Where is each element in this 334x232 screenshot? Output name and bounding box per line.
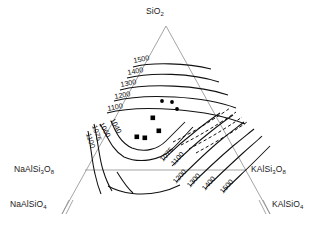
isotherm-1200 (114, 97, 236, 108)
isotherm-label-lr-1400: 1400 (200, 174, 217, 192)
isotherm-label-1500: 1500 (133, 53, 150, 65)
vertex-label-albite: NaAlSi3O8 (14, 164, 54, 174)
data-point-circle (160, 99, 164, 103)
isotherm-1500 (133, 64, 211, 69)
isotherm-1040 (111, 121, 185, 150)
tick-right-outer (259, 200, 266, 214)
data-point-square (151, 116, 156, 121)
vertex-label-nepheline: NaAlSiO4 (10, 199, 47, 209)
vertex-label-sio2: SiO2 (146, 6, 164, 16)
data-point-square (143, 136, 148, 141)
data-markers-squares (135, 116, 162, 141)
data-point-circle (175, 107, 179, 111)
vertex-label-kalsilite: KAlSiO4 (272, 199, 303, 209)
isotherm-label-1100: 1100 (107, 101, 124, 113)
data-point-square (157, 129, 162, 134)
diagram-canvas: 1500 1400 1300 1200 1100 1060 1040 1075 … (0, 0, 334, 232)
sub-join-curves (108, 172, 180, 194)
tick-left-inner (62, 200, 69, 214)
vertex-tick-marks (62, 200, 270, 214)
ternary-phase-diagram: 1500 1400 1300 1200 1100 1060 1040 1075 … (0, 0, 334, 232)
isotherm-label-1200: 1200 (114, 89, 131, 101)
isotherm-1400 (127, 74, 219, 82)
tick-left-outer (66, 200, 73, 214)
sub-join-curve-left (117, 172, 133, 193)
dashed-curve-2 (181, 112, 236, 145)
dashed-curves (173, 108, 247, 153)
vertex-label-orthoclase: KAlSi3O8 (251, 164, 286, 174)
isotherm-1300 (120, 86, 228, 95)
data-point-square (135, 135, 140, 140)
edge-right (166, 26, 270, 214)
tick-right-inner (263, 200, 270, 214)
sub-join-curve-arc (108, 185, 180, 194)
data-point-circle (170, 100, 174, 104)
triangle-frame (62, 26, 270, 214)
isotherm-label-lr-1500: 1500 (218, 177, 235, 195)
